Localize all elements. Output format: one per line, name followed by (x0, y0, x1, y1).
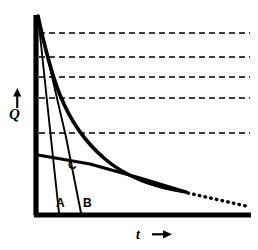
x-axis-arrow-icon (152, 230, 172, 238)
curve-label-b: B (83, 197, 92, 209)
main-decay-curve (38, 16, 186, 192)
curve-label-a: A (56, 197, 65, 209)
plot-canvas (0, 0, 258, 250)
y-axis-arrow-icon (13, 88, 21, 108)
figure-container: Q t A B C (0, 0, 258, 250)
curve-label-c: C (68, 159, 77, 171)
x-axis-label: t (136, 228, 140, 242)
tail-extrapolation (188, 193, 246, 206)
y-axis-label: Q (9, 107, 20, 122)
curve-a (38, 16, 59, 213)
